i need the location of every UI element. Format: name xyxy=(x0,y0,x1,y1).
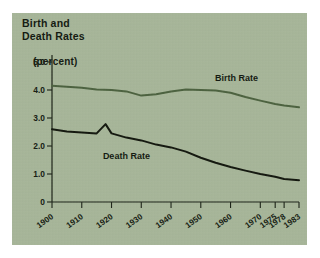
y-tick-label: 4.0 xyxy=(33,85,45,95)
y-tick-label: 1.0 xyxy=(33,169,45,179)
x-tick-label: 1900 xyxy=(35,212,55,230)
x-tick-label: 1940 xyxy=(154,212,174,230)
y-axis: 5.04.03.02.01.00 xyxy=(33,55,52,207)
series-line-death-rate xyxy=(52,124,299,180)
x-tick-label: 1910 xyxy=(65,212,85,230)
annotation-birth-rate: Birth Rate xyxy=(215,73,258,83)
series-annotations: Birth RateDeath Rate xyxy=(103,73,258,161)
x-tick-label: 1960 xyxy=(214,212,234,230)
y-tick-label: 3.0 xyxy=(33,113,45,123)
x-tick-label: 1930 xyxy=(124,212,144,230)
series-lines xyxy=(52,86,299,180)
x-tick-label: 1950 xyxy=(184,212,204,230)
y-tick-label: 2.0 xyxy=(33,141,45,151)
y-tick-label: 0 xyxy=(40,197,45,207)
y-tick-label: 5.0 xyxy=(33,57,45,67)
series-line-birth-rate xyxy=(52,86,299,108)
x-axis: 1900191019201930194019501960197019751978… xyxy=(35,202,302,230)
plot-area: 5.04.03.02.01.00 19001910192019301940195… xyxy=(12,13,307,245)
x-tick-label: 1983 xyxy=(282,212,302,230)
annotation-death-rate: Death Rate xyxy=(103,151,150,161)
x-tick-label: 1920 xyxy=(95,212,115,230)
chart-figure: Birth and Death Rates (percent) 5.04.03.… xyxy=(12,13,307,245)
